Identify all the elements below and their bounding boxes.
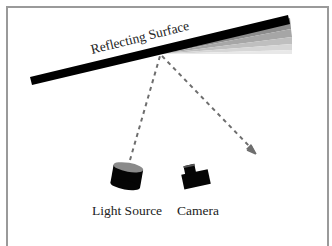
camera-label: Camera xyxy=(177,203,219,218)
light-source-icon xyxy=(110,160,144,192)
light-source-label: Light Source xyxy=(92,203,162,218)
camera-icon xyxy=(180,161,211,189)
incident-ray xyxy=(130,56,160,160)
reflected-ray xyxy=(162,56,252,149)
